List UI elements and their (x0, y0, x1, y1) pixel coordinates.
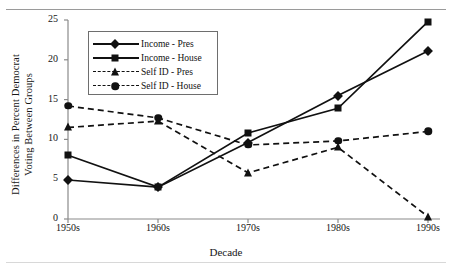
legend-item[interactable]: Income - House (89, 51, 217, 65)
legend-label: Income - House (141, 53, 202, 63)
y-tick-label: 20 (32, 53, 58, 64)
data-point-square-icon (155, 184, 162, 191)
legend-swatch-square-icon (89, 51, 141, 65)
data-point-square-icon (245, 130, 252, 137)
legend-item[interactable]: Income - Pres (89, 37, 217, 51)
data-point-circle-icon (424, 128, 432, 136)
data-point-square-icon (425, 18, 432, 25)
chart-legend: Income - Pres Income - House Self ID - P… (88, 31, 218, 95)
data-point-square-icon (65, 152, 72, 159)
data-point-circle-icon (154, 114, 162, 122)
legend-swatch-triangle-icon (89, 65, 141, 79)
data-point-square-icon (335, 105, 342, 112)
legend-swatch-diamond-icon (89, 37, 141, 51)
y-tick-label: 5 (32, 172, 58, 183)
x-tick-label: 1980s (308, 222, 368, 233)
x-tick-label: 1970s (218, 222, 278, 233)
x-tick-label: 1960s (128, 222, 188, 233)
legend-item[interactable]: Self ID - Pres (89, 65, 217, 79)
x-tick-label: 1990s (398, 222, 452, 233)
chart-figure: Differences in Percent Democrat Voting B… (0, 0, 452, 270)
legend-swatch-circle-icon (89, 79, 141, 93)
y-tick-label: 25 (32, 13, 58, 24)
data-point-circle-icon (64, 102, 72, 110)
data-point-triangle-icon (424, 212, 432, 220)
y-tick-label: 15 (32, 93, 58, 104)
legend-label: Income - Pres (141, 39, 194, 49)
legend-label: Self ID - House (141, 81, 201, 91)
data-point-triangle-icon (244, 168, 252, 176)
y-tick-label: 10 (32, 132, 58, 143)
data-point-circle-icon (244, 141, 252, 149)
data-point-triangle-icon (64, 123, 72, 131)
legend-label: Self ID - Pres (141, 67, 193, 77)
legend-item[interactable]: Self ID - House (89, 79, 217, 93)
x-tick-label: 1950s (38, 222, 98, 233)
data-point-circle-icon (334, 137, 342, 145)
